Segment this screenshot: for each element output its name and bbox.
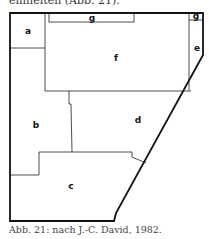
label-g-top: g	[89, 13, 95, 23]
label-b: b	[33, 120, 40, 130]
label-d: d	[135, 115, 141, 125]
region-a-border	[10, 13, 45, 91]
floor-plan-diagram: a b c d e f g g	[0, 0, 209, 239]
region-c-border	[10, 152, 146, 175]
label-e: e	[194, 43, 200, 53]
region-b-d-divider	[69, 91, 72, 152]
outer-boundary	[10, 13, 203, 221]
label-c: c	[68, 181, 73, 191]
label-a: a	[25, 26, 31, 36]
figure-caption: Abb. 21: nach J.-C. David, 1982.	[9, 224, 162, 235]
label-g-right: g	[193, 11, 199, 21]
label-f: f	[114, 53, 118, 63]
